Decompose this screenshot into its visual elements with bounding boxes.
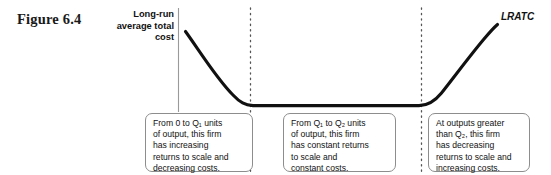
callout-1-line-3: has increasing: [153, 140, 246, 151]
callout-1-line-4: returns to scale and: [153, 152, 246, 163]
callout-2-line-4: to scale and: [291, 152, 389, 163]
callout-box-increasing-returns: From 0 to Q₁ units of output, this firm …: [145, 113, 253, 172]
lratc-curve-label: LRATC: [501, 11, 534, 22]
callout-2-line-2: of output, this firm: [291, 129, 389, 140]
callout-1-line-5: decreasing costs.: [153, 163, 246, 174]
callout-3-line-1: At outputs greater: [436, 118, 523, 129]
callout-3-line-3: has decreasing: [436, 140, 523, 151]
callout-3-line-4: returns to scale and: [436, 152, 523, 163]
callout-2-line-5: constant costs.: [291, 163, 389, 174]
callout-2-line-1: From Q₁ to Q₂ units: [291, 118, 389, 129]
callout-1-line-2: of output, this firm: [153, 129, 246, 140]
callout-1-line-1: From 0 to Q₁ units: [153, 118, 246, 129]
callout-3-line-2: than Q₂, this firm: [436, 129, 523, 140]
callout-box-constant-returns: From Q₁ to Q₂ units of output, this firm…: [283, 113, 396, 172]
figure-container: Figure 6.4 Long-run average total cost L…: [0, 0, 551, 175]
callout-2-line-3: has constant returns: [291, 140, 389, 151]
callout-box-decreasing-returns: At outputs greater than Q₂, this firm ha…: [428, 113, 530, 172]
lratc-curve: [186, 25, 498, 106]
callout-3-line-5: increasing costs.: [436, 163, 523, 174]
